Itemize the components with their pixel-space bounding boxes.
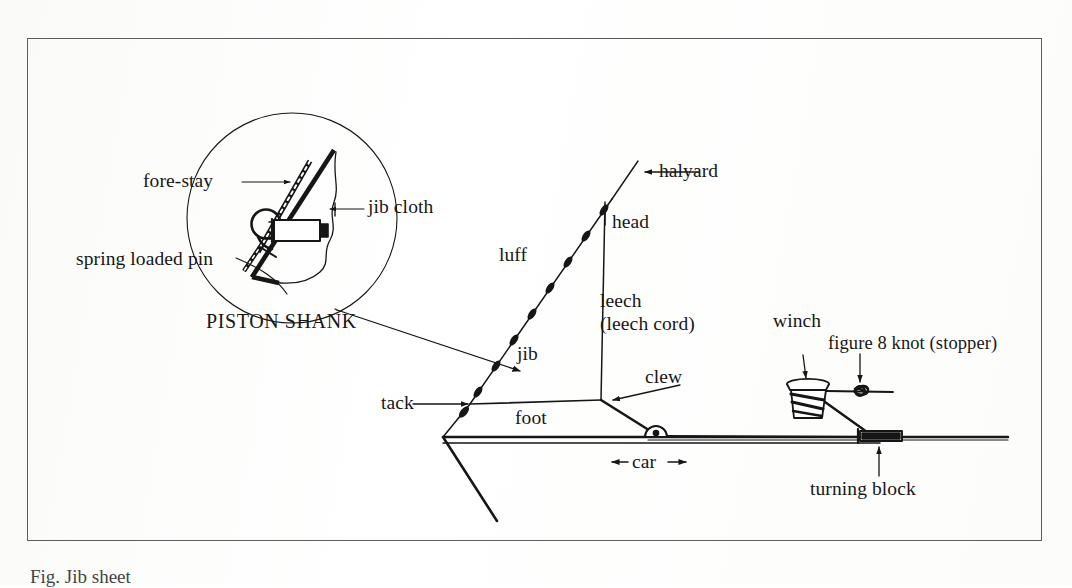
label-leech-cord: (leech cord): [600, 313, 695, 335]
turning-block: [858, 429, 902, 443]
luff-line: [470, 199, 612, 404]
foot-line: [470, 400, 601, 404]
label-tack: tack: [381, 392, 414, 414]
label-figure-8-knot: figure 8 knot (stopper): [828, 333, 997, 354]
winch-leader: [803, 355, 806, 378]
halyard-line: [612, 161, 638, 199]
hull-and-deck: [443, 437, 1008, 521]
label-luff: luff: [499, 244, 527, 266]
jib-sheet: [601, 392, 874, 437]
label-head: head: [612, 211, 649, 233]
label-fore-stay: fore-stay: [143, 170, 213, 192]
label-jib: jib: [517, 343, 538, 365]
figure-caption: Fig. Jib sheet: [30, 566, 131, 588]
piston-shank-mechanism: [244, 150, 336, 283]
label-leech: leech: [600, 290, 642, 312]
label-winch: winch: [773, 310, 821, 332]
label-car: car: [632, 451, 656, 473]
label-clew: clew: [645, 366, 682, 388]
label-jib-cloth: jib cloth: [368, 196, 433, 218]
label-piston-shank: PISTON SHANK: [206, 310, 357, 332]
label-halyard: halyard: [659, 160, 718, 182]
label-turning-block: turning block: [810, 478, 916, 500]
label-foot: foot: [515, 407, 547, 429]
label-spring-loaded-pin: spring loaded pin: [76, 248, 213, 270]
bow-line: [443, 437, 497, 521]
